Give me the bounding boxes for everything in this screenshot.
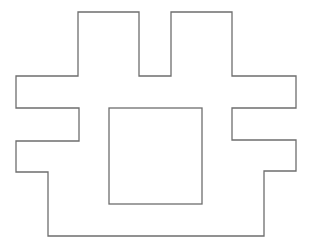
outer-castle-outline: [16, 12, 296, 236]
line-drawing: [0, 0, 309, 246]
inner-square: [109, 108, 202, 204]
diagram-canvas: [0, 0, 309, 246]
